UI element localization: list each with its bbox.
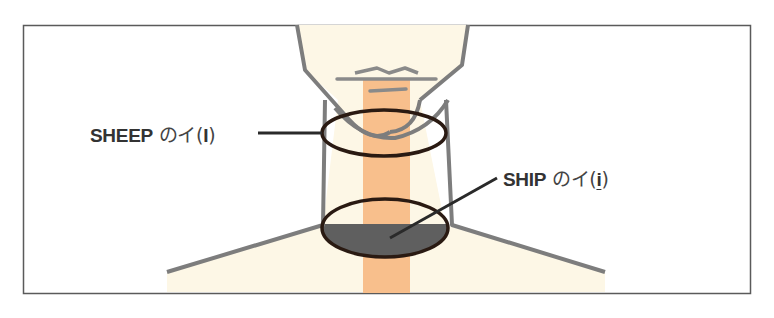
sheep-close-paren: ) bbox=[208, 124, 215, 146]
sheep-word: SHEEP bbox=[90, 125, 153, 146]
sheep-jp: のイ bbox=[159, 124, 196, 146]
ship-word: SHIP bbox=[503, 169, 546, 190]
adam-line bbox=[370, 89, 406, 91]
sheep-label: SHEEP のイ(I) bbox=[90, 120, 215, 147]
neck-diagram bbox=[0, 0, 774, 318]
ship-label: SHIP のイ(i) bbox=[503, 164, 609, 191]
ship-jp: のイ bbox=[552, 168, 589, 190]
ship-close-paren: ) bbox=[601, 168, 608, 190]
